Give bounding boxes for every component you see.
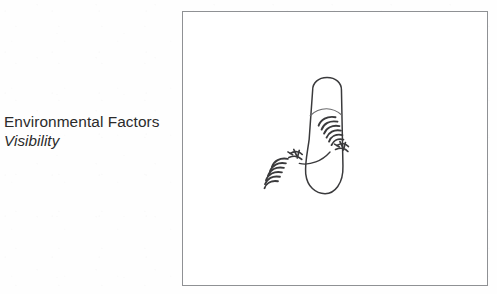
illustration-svg	[183, 12, 487, 285]
figure-page: Environmental Factors Visibility	[0, 0, 497, 294]
figure-caption: Environmental Factors Visibility	[4, 112, 180, 150]
figure-caption-title: Environmental Factors	[4, 112, 180, 131]
wave-emitter-right	[335, 142, 349, 152]
figure-panel	[182, 11, 488, 286]
wave-emanation-left	[265, 159, 288, 189]
wave-emitter-left	[288, 149, 302, 159]
figure-caption-subtitle: Visibility	[4, 131, 180, 150]
windshield-line	[310, 109, 342, 116]
connector-line	[299, 152, 330, 164]
